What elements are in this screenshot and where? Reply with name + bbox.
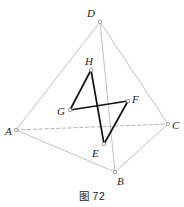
- vertex-marker-A: [14, 128, 17, 131]
- edge-CD: [100, 22, 168, 124]
- vertex-marker-F: [126, 99, 129, 102]
- vertex-marker-C: [166, 122, 169, 125]
- vertex-marker-D: [98, 20, 101, 23]
- edge-BD: [100, 22, 115, 172]
- vertex-label-H: H: [85, 56, 93, 67]
- vertex-label-C: C: [172, 120, 179, 131]
- edge-FG: [70, 101, 128, 110]
- vertex-label-G: G: [57, 106, 65, 117]
- edge-BC: [115, 124, 168, 172]
- vertex-marker-G: [68, 108, 71, 111]
- vertex-marker-B: [113, 170, 116, 173]
- edge-EF: [104, 101, 128, 144]
- vertex-marker-H: [89, 68, 92, 71]
- vertex-label-D: D: [87, 8, 95, 19]
- vertex-label-B: B: [117, 176, 124, 187]
- edge-GH: [70, 70, 91, 110]
- figure-container: A B C D E F G H 图 72: [0, 0, 184, 207]
- tetrahedron-dashed-edges: [16, 124, 168, 130]
- vertex-marker-E: [102, 142, 105, 145]
- edge-AC-hidden: [16, 124, 168, 130]
- vertex-label-F: F: [132, 94, 139, 105]
- edge-AB: [16, 130, 115, 172]
- tetrahedron-diagram: [0, 0, 184, 207]
- figure-caption: 图 72: [0, 188, 184, 203]
- vertex-label-A: A: [5, 126, 12, 137]
- vertex-label-E: E: [92, 148, 99, 159]
- inscribed-quadrilateral: [70, 70, 128, 144]
